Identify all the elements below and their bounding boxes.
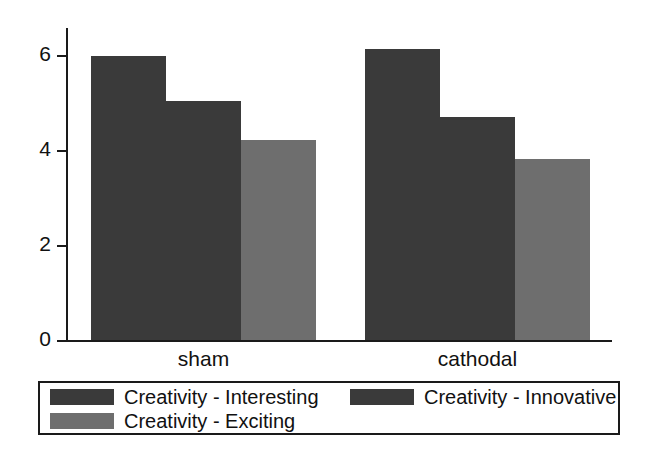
- y-tick-2: 2: [57, 245, 66, 247]
- legend-swatch-innovative-icon: [350, 389, 414, 405]
- legend-label-interesting: Creativity - Interesting: [124, 386, 319, 408]
- y-tick-label-2: 2: [39, 232, 51, 256]
- legend-item-interesting: Creativity - Interesting: [50, 386, 319, 408]
- y-tick-label-0: 0: [39, 327, 51, 351]
- x-axis-line: [66, 340, 612, 342]
- bar-cathodal-interesting: [365, 49, 440, 340]
- bar-sham-innovative: [166, 101, 241, 340]
- legend-swatch-interesting-icon: [50, 389, 114, 405]
- legend-item-exciting: Creativity - Exciting: [50, 410, 295, 432]
- y-axis-line: [66, 28, 68, 342]
- y-tick-label-4: 4: [39, 137, 51, 161]
- bar-cathodal-innovative: [440, 117, 515, 340]
- y-tick-4: 4: [57, 150, 66, 152]
- legend-label-innovative: Creativity - Innovative: [424, 386, 616, 408]
- x-tick-label-sham: sham: [91, 346, 316, 372]
- y-tick-0: 0: [57, 340, 66, 342]
- bar-sham-interesting: [91, 56, 166, 340]
- y-tick-label-6: 6: [39, 42, 51, 66]
- bar-chart-figure: 0 2 4 6 sham cathodal Creativity - Inter…: [0, 0, 655, 469]
- legend: Creativity - Interesting Creativity - In…: [38, 381, 620, 435]
- legend-label-exciting: Creativity - Exciting: [124, 410, 295, 432]
- legend-item-innovative: Creativity - Innovative: [350, 386, 616, 408]
- legend-swatch-exciting-icon: [50, 413, 114, 429]
- bar-sham-exciting: [241, 140, 316, 340]
- plot-area: 0 2 4 6 sham cathodal: [66, 28, 612, 342]
- bar-cathodal-exciting: [515, 159, 590, 340]
- x-tick-label-cathodal: cathodal: [365, 346, 590, 372]
- y-tick-6: 6: [57, 55, 66, 57]
